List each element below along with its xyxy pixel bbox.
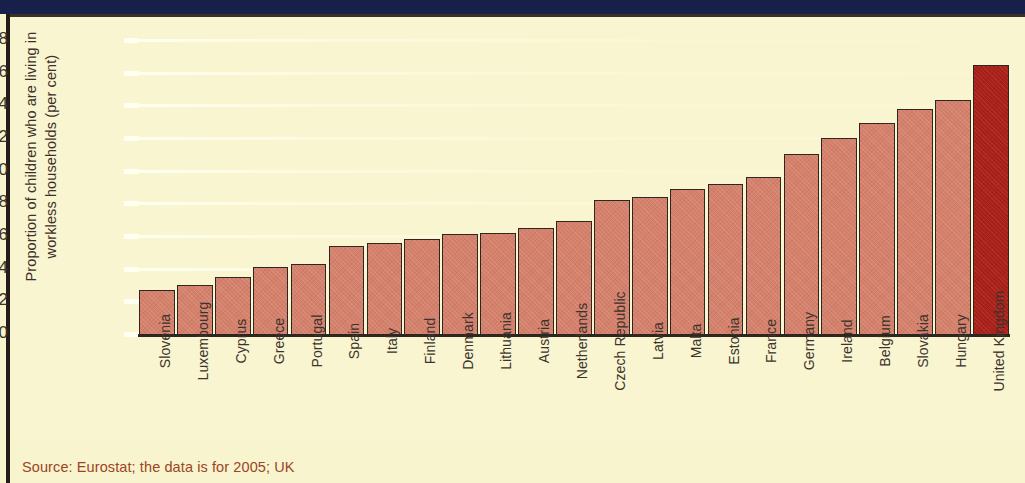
x-axis-tick-label: Spain bbox=[346, 323, 362, 359]
x-label-cell: Czech Republic bbox=[593, 337, 631, 457]
x-label-cell: United Kingdom bbox=[972, 337, 1010, 457]
y-tick-mark bbox=[124, 136, 139, 141]
bar bbox=[367, 243, 403, 334]
x-label-cell: Estonia bbox=[707, 337, 745, 457]
x-label-cell: Portugal bbox=[290, 337, 328, 457]
y-tick-mark bbox=[124, 71, 139, 76]
bar-column bbox=[252, 40, 290, 334]
x-axis-tick-label: Netherlands bbox=[574, 303, 590, 380]
x-axis-tick-label: Ireland bbox=[839, 319, 855, 363]
y-axis-tick-label: 12 bbox=[0, 127, 8, 147]
bar-column bbox=[441, 40, 479, 334]
x-axis-tick-label: Latvia bbox=[650, 322, 666, 360]
x-label-cell: Ireland bbox=[820, 337, 858, 457]
y-axis-tick-label: 2 bbox=[0, 290, 8, 310]
x-label-cell: Finland bbox=[403, 337, 441, 457]
y-axis-label: Proportion of children who are living in… bbox=[22, 7, 61, 307]
y-axis-label-line-2: workless households (per cent) bbox=[43, 55, 59, 259]
x-axis-tick-label: Lithuania bbox=[498, 312, 514, 370]
bar bbox=[784, 154, 820, 334]
bar-column bbox=[782, 40, 820, 334]
x-axis-category-labels: SloveniaLuxembourgCyprusGreecePortugalSp… bbox=[138, 337, 1010, 457]
footer-divider bbox=[10, 447, 1025, 448]
x-label-cell: Cyprus bbox=[214, 337, 252, 457]
bar-column bbox=[176, 40, 214, 334]
y-axis-tick-label: 0 bbox=[0, 323, 8, 343]
bar-column bbox=[669, 40, 707, 334]
bar bbox=[329, 246, 365, 334]
bar bbox=[935, 100, 971, 334]
y-tick-mark bbox=[124, 103, 139, 108]
bar-column bbox=[934, 40, 972, 334]
bar-column bbox=[328, 40, 366, 334]
y-tick-mark bbox=[124, 234, 139, 239]
x-axis-tick-label: Estonia bbox=[726, 317, 742, 364]
plot-panel: Proportion of children who are living in… bbox=[10, 17, 1025, 442]
x-axis-tick-label: Slovakia bbox=[915, 314, 931, 368]
y-tick-mark bbox=[124, 201, 139, 206]
source-note: Source: Eurostat; the data is for 2005; … bbox=[22, 459, 295, 475]
x-axis-tick-label: Belgium bbox=[877, 315, 893, 366]
x-axis-tick-label: Greece bbox=[271, 318, 287, 365]
y-tick-mark bbox=[124, 299, 139, 304]
x-label-cell: Lithuania bbox=[479, 337, 517, 457]
x-axis-tick-label: Denmark bbox=[460, 312, 476, 370]
x-axis-tick-label: France bbox=[763, 319, 779, 363]
y-axis-tick-label: 10 bbox=[0, 160, 8, 180]
bar-column bbox=[555, 40, 593, 334]
y-tick-mark bbox=[124, 169, 139, 174]
chart-figure: Proportion of children who are living in… bbox=[0, 0, 1025, 483]
y-tick-mark bbox=[124, 38, 139, 43]
x-label-cell: France bbox=[745, 337, 783, 457]
bar bbox=[859, 123, 895, 334]
bar-series bbox=[138, 40, 1010, 334]
x-label-cell: Denmark bbox=[441, 337, 479, 457]
bar bbox=[708, 184, 744, 334]
x-label-cell: Slovenia bbox=[138, 337, 176, 457]
bar-column bbox=[858, 40, 896, 334]
y-axis-tick-label: 8 bbox=[0, 192, 8, 212]
bar-column bbox=[707, 40, 745, 334]
x-label-cell: Luxembourg bbox=[176, 337, 214, 457]
bar-column bbox=[593, 40, 631, 334]
y-tick-mark bbox=[124, 332, 139, 337]
bar-column bbox=[138, 40, 176, 334]
x-axis-tick-label: United Kingdom bbox=[991, 290, 1007, 391]
x-axis-tick-label: Germany bbox=[801, 312, 817, 370]
bar-column bbox=[517, 40, 555, 334]
x-label-cell: Italy bbox=[365, 337, 403, 457]
x-axis-tick-label: Cyprus bbox=[233, 319, 249, 364]
x-axis-tick-label: Italy bbox=[384, 328, 400, 354]
x-label-cell: Greece bbox=[252, 337, 290, 457]
x-axis-tick-label: Luxembourg bbox=[195, 302, 211, 381]
bar-column bbox=[896, 40, 934, 334]
x-label-cell: Belgium bbox=[858, 337, 896, 457]
x-label-cell: Spain bbox=[328, 337, 366, 457]
bar-column bbox=[631, 40, 669, 334]
x-axis-tick-label: Finland bbox=[422, 318, 438, 365]
y-axis-tick-label: 4 bbox=[0, 258, 8, 278]
x-axis-tick-label: Malta bbox=[688, 324, 704, 359]
y-axis-tick-label: 6 bbox=[0, 225, 8, 245]
bar bbox=[821, 138, 857, 334]
x-label-cell: Germany bbox=[782, 337, 820, 457]
bar bbox=[632, 197, 668, 334]
x-label-cell: Hungary bbox=[934, 337, 972, 457]
bar bbox=[670, 189, 706, 334]
bar-column bbox=[745, 40, 783, 334]
x-label-cell: Netherlands bbox=[555, 337, 593, 457]
x-axis-tick-label: Portugal bbox=[309, 315, 325, 368]
x-label-cell: Malta bbox=[669, 337, 707, 457]
bar bbox=[746, 177, 782, 334]
y-axis-tick-label: 18 bbox=[0, 29, 8, 49]
bar bbox=[897, 109, 933, 334]
bar-column bbox=[403, 40, 441, 334]
x-axis-tick-label: Slovenia bbox=[157, 314, 173, 369]
top-band bbox=[0, 0, 1025, 14]
bar-column bbox=[479, 40, 517, 334]
y-axis-tick-label: 16 bbox=[0, 62, 8, 82]
x-axis-tick-label: Hungary bbox=[953, 314, 969, 368]
x-label-cell: Austria bbox=[517, 337, 555, 457]
bar-column bbox=[214, 40, 252, 334]
y-axis-tick-label: 14 bbox=[0, 94, 8, 114]
